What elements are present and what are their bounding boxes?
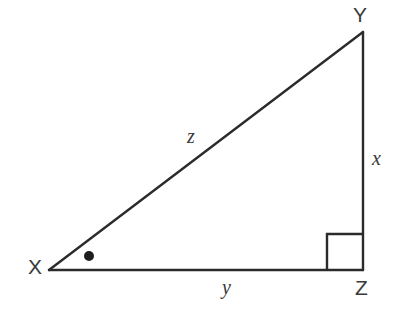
side-label-vertical-leg: x [372, 148, 381, 168]
right-angle-square-icon [327, 234, 363, 270]
triangle-figure [0, 0, 405, 314]
vertex-label-z: Z [355, 277, 368, 298]
triangle-side-hypotenuse [49, 32, 363, 270]
angle-marker-dot-icon [84, 251, 94, 261]
geometry-diagram: X Y Z z x y [0, 0, 405, 314]
vertex-label-y: Y [353, 4, 367, 25]
vertex-label-x: X [28, 256, 42, 277]
side-label-horizontal-leg: y [222, 277, 231, 297]
side-label-hypotenuse: z [187, 126, 195, 146]
